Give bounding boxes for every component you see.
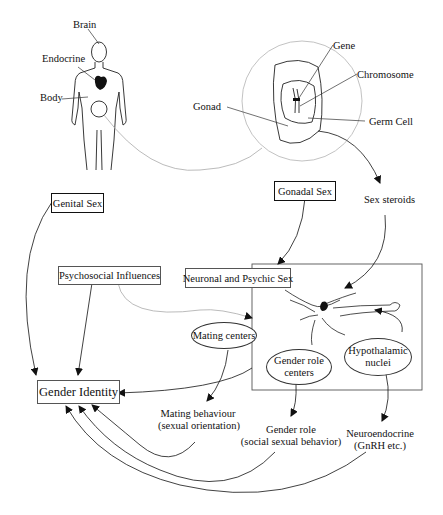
gonad-magnified (242, 41, 362, 161)
label-chromosome: Chromosome (357, 69, 414, 81)
gonadal-sex-box: Gonadal Sex (274, 181, 336, 201)
neuron-icon (285, 290, 400, 345)
mating-centers-node: Mating centers (191, 322, 257, 349)
label-body: Body (40, 92, 63, 104)
mating-behaviour-output: Mating behaviour(sexual orientation) (158, 408, 238, 432)
label-endocrine: Endocrine (42, 53, 85, 65)
gender-role-centers-label: Gender rolecenters (274, 355, 324, 379)
gender-role-centers-node: Gender rolecenters (266, 349, 332, 385)
psychosocial-influences-box: Psychosocial Influences (58, 266, 161, 285)
hypothalamic-nuclei-node: Hypothalamicnuclei (344, 338, 412, 376)
endocrine-heart-icon (95, 76, 107, 90)
gender-identity-box: Gender Identity (37, 380, 120, 404)
mating-centers-label: Mating centers (193, 330, 256, 342)
neuron-nucleus-icon (320, 302, 328, 312)
gender-role-output: Gender role(social sexual behavior) (236, 424, 346, 448)
label-brain: Brain (73, 19, 96, 31)
neuronal-psychic-sex-box: Neuronal and Psychic Sex (185, 268, 291, 288)
label-gonad: Gonad (193, 101, 221, 113)
genital-sex-box: Genital Sex (51, 193, 104, 213)
neuroendocrine-output: Neuroendocrine(GnRH etc.) (340, 428, 420, 452)
label-sex-steroids: Sex steroids (364, 194, 415, 206)
label-gene: Gene (333, 40, 355, 52)
label-germ-cell: Germ Cell (369, 116, 413, 128)
hypothalamic-nuclei-label: Hypothalamicnuclei (348, 345, 407, 369)
